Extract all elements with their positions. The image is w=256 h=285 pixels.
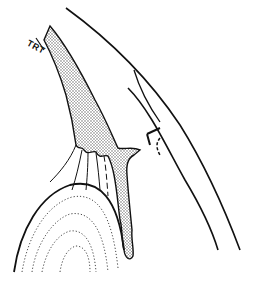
crossing-line bbox=[134, 70, 160, 122]
wedge-dashed bbox=[157, 138, 160, 155]
lens-layers bbox=[22, 196, 118, 272]
lens-outline bbox=[14, 184, 124, 272]
stippled-tissue-band bbox=[44, 26, 140, 259]
